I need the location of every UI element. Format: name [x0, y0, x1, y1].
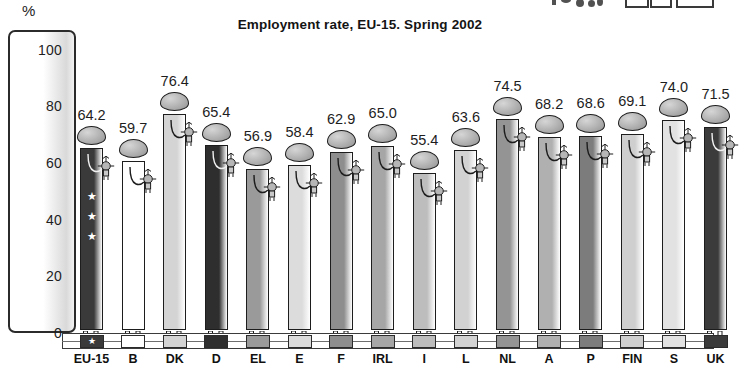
- figure-hand-icon: [430, 179, 448, 209]
- country-code-A: A: [545, 352, 554, 366]
- figure-hand-icon: [263, 175, 281, 205]
- legend-swatch-EU-15[interactable]: ★: [80, 335, 104, 348]
- figure-hand-icon: [97, 154, 115, 184]
- figure-hand-icon: [222, 151, 240, 181]
- country-code-L: L: [462, 352, 470, 366]
- figure-hand-icon: [638, 140, 656, 170]
- bar-figure-E[interactable]: 58.4: [288, 165, 311, 330]
- bar-value-label-P: 68.6: [577, 95, 605, 111]
- figure-hand-icon: [471, 156, 489, 186]
- figure-head-NL: [493, 97, 522, 116]
- bar-value-label-EL: 56.9: [244, 128, 272, 144]
- country-code-IRL: IRL: [373, 352, 393, 366]
- bar-figure-UK[interactable]: 71.5: [704, 127, 727, 330]
- bar-figure-L[interactable]: 63.6: [454, 150, 477, 330]
- bar-value-label-IRL: 65.0: [369, 105, 397, 121]
- figure-hand-icon: [388, 152, 406, 182]
- figure-head-FIN: [618, 112, 647, 131]
- figure-hand-icon: [596, 142, 614, 172]
- legend-swatch-UK[interactable]: [704, 335, 728, 348]
- figure-head-D: [202, 123, 231, 142]
- legend-swatch-IRL[interactable]: [371, 335, 395, 348]
- figure-head-L: [451, 128, 480, 147]
- legend-swatch-NL[interactable]: [496, 335, 520, 348]
- bar-value-label-NL: 74.5: [493, 78, 521, 94]
- bar-figure-S[interactable]: 74.0: [662, 120, 685, 330]
- legend-swatch-B[interactable]: [121, 335, 145, 348]
- country-code-P: P: [587, 352, 595, 366]
- bar-value-label-A: 68.2: [535, 96, 563, 112]
- bar-value-label-B: 59.7: [119, 120, 147, 136]
- bar-figure-D[interactable]: 65.4: [205, 145, 228, 330]
- figure-head-A: [535, 115, 564, 134]
- figure-head-S: [659, 98, 688, 117]
- bar-figure-FIN[interactable]: 69.1: [621, 134, 644, 330]
- figure-head-DK: [160, 92, 189, 111]
- country-code-I: I: [423, 352, 426, 366]
- legend-swatch-E[interactable]: [288, 335, 312, 348]
- bar-value-label-DK: 76.4: [161, 73, 189, 89]
- legend-swatch-I[interactable]: [412, 335, 436, 348]
- figure-head-F: [327, 130, 356, 149]
- eu-star-icon: ★: [87, 231, 97, 242]
- bar-figure-I[interactable]: 55.4: [413, 173, 436, 330]
- figure-hand-icon: [180, 120, 198, 150]
- bar-figure-IRL[interactable]: 65.0: [371, 146, 394, 330]
- country-code-D: D: [212, 352, 221, 366]
- country-code-S: S: [670, 352, 678, 366]
- legend-swatch-FIN[interactable]: [620, 335, 644, 348]
- legend-swatch-DK[interactable]: [163, 335, 187, 348]
- figure-head-B: [119, 139, 148, 158]
- figure-hand-icon: [347, 158, 365, 188]
- figure-hand-icon: [679, 126, 697, 156]
- bar-figure-B[interactable]: 59.7: [122, 161, 145, 330]
- bar-value-label-EU-15: 64.2: [77, 107, 105, 123]
- figure-hand-icon: [721, 133, 739, 163]
- bar-figure-P[interactable]: 68.6: [579, 136, 602, 330]
- country-code-EU-15: EU-15: [74, 352, 109, 366]
- bar-value-label-F: 62.9: [327, 111, 355, 127]
- country-code-UK: UK: [706, 352, 724, 366]
- bar-value-label-FIN: 69.1: [618, 93, 646, 109]
- figure-head-EU-15: [77, 126, 106, 145]
- country-code-DK: DK: [166, 352, 184, 366]
- figure-head-IRL: [368, 124, 397, 143]
- country-code-B: B: [129, 352, 138, 366]
- bar-figure-EU-15[interactable]: ★★★64.2: [80, 148, 103, 330]
- country-code-NL: NL: [499, 352, 516, 366]
- bar-figure-F[interactable]: 62.9: [330, 152, 353, 330]
- legend-swatch-P[interactable]: [579, 335, 603, 348]
- bar-value-label-L: 63.6: [452, 109, 480, 125]
- country-code-FIN: FIN: [622, 352, 642, 366]
- bar-figure-NL[interactable]: 74.5: [496, 119, 519, 330]
- bar-value-label-UK: 71.5: [701, 86, 729, 102]
- bar-figure-A[interactable]: 68.2: [538, 137, 561, 330]
- figure-head-I: [410, 151, 439, 170]
- legend-swatch-D[interactable]: [204, 335, 228, 348]
- bar-figure-DK[interactable]: 76.4: [163, 114, 186, 330]
- legend-swatch-S[interactable]: [662, 335, 686, 348]
- legend-swatch-A[interactable]: [537, 335, 561, 348]
- bar-value-label-D: 65.4: [202, 104, 230, 120]
- legend-swatch-EL[interactable]: [246, 335, 270, 348]
- eu-star-icon: ★: [87, 191, 97, 202]
- eu-star-icon: ★: [87, 211, 97, 222]
- figure-head-EL: [243, 147, 272, 166]
- figure-hand-icon: [555, 143, 573, 173]
- figure-head-E: [285, 143, 314, 162]
- figure-hand-icon: [305, 171, 323, 201]
- figure-hand-icon: [139, 167, 157, 197]
- legend-swatch-F[interactable]: [329, 335, 353, 348]
- figure-head-UK: [701, 105, 730, 124]
- eu-star-icon: ★: [88, 337, 96, 346]
- country-code-EL: EL: [250, 352, 266, 366]
- bar-value-label-S: 74.0: [660, 79, 688, 95]
- bar-figure-EL[interactable]: 56.9: [246, 169, 269, 330]
- bar-value-label-I: 55.4: [410, 132, 438, 148]
- figure-head-P: [576, 114, 605, 133]
- bar-value-label-E: 58.4: [285, 124, 313, 140]
- legend-swatch-L[interactable]: [454, 335, 478, 348]
- country-code-F: F: [337, 352, 345, 366]
